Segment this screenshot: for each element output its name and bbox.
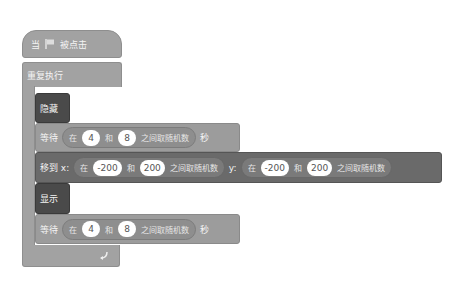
green-flag-icon: [44, 38, 56, 50]
op-in-label: 在: [80, 162, 88, 173]
random-min-input[interactable]: 4: [82, 221, 100, 237]
op-and-label: 和: [127, 162, 135, 173]
op-suffix-label: 之间取随机数: [141, 132, 189, 143]
op-suffix-label: 之间取随机数: [141, 224, 189, 235]
op-suffix-label: 之间取随机数: [170, 162, 218, 173]
goto-xy-block[interactable]: 移到 x: 在 -200 和 200 之间取随机数 y: 在 -200 和 20…: [35, 152, 442, 183]
x-max-input[interactable]: 200: [140, 160, 165, 176]
hide-block[interactable]: 隐藏: [35, 93, 70, 123]
random-operator[interactable]: 在 4 和 8 之间取随机数: [62, 127, 196, 148]
show-label: 显示: [40, 192, 58, 205]
wait-random-block[interactable]: 等待 在 4 和 8 之间取随机数 秒: [35, 123, 240, 152]
op-in-label: 在: [69, 132, 77, 143]
random-max-input[interactable]: 8: [118, 221, 136, 237]
wait-label: 等待: [40, 223, 58, 236]
op-and-label: 和: [105, 224, 113, 235]
op-in-label: 在: [248, 162, 256, 173]
random-max-input[interactable]: 8: [118, 130, 136, 146]
when-flag-clicked-block[interactable]: 当 被点击: [22, 30, 122, 58]
op-suffix-label: 之间取随机数: [337, 162, 385, 173]
seconds-label: 秒: [200, 131, 209, 144]
wait-random-block-2[interactable]: 等待 在 4 和 8 之间取随机数 秒: [35, 214, 240, 244]
y-min-input[interactable]: -200: [261, 160, 289, 176]
op-and-label: 和: [294, 162, 302, 173]
hat-prefix: 当: [31, 38, 40, 51]
loop-arrow-icon: [99, 250, 109, 262]
goto-x-label: 移到 x:: [40, 161, 69, 174]
op-in-label: 在: [69, 224, 77, 235]
forever-label: 重复执行: [27, 69, 63, 82]
hat-suffix: 被点击: [60, 38, 87, 51]
op-and-label: 和: [105, 132, 113, 143]
forever-arm: [22, 86, 35, 249]
seconds-label: 秒: [200, 223, 209, 236]
hide-label: 隐藏: [40, 102, 58, 115]
y-random-operator[interactable]: 在 -200 和 200 之间取随机数: [241, 157, 393, 178]
random-operator[interactable]: 在 4 和 8 之间取随机数: [62, 219, 196, 240]
forever-block[interactable]: 重复执行: [22, 62, 122, 87]
x-min-input[interactable]: -200: [93, 160, 121, 176]
wait-label: 等待: [40, 131, 58, 144]
y-max-input[interactable]: 200: [307, 160, 332, 176]
show-block[interactable]: 显示: [35, 183, 70, 214]
x-random-operator[interactable]: 在 -200 和 200 之间取随机数: [73, 157, 225, 178]
goto-y-label: y:: [229, 163, 237, 173]
random-min-input[interactable]: 4: [82, 130, 100, 146]
forever-bottom: [22, 245, 120, 267]
